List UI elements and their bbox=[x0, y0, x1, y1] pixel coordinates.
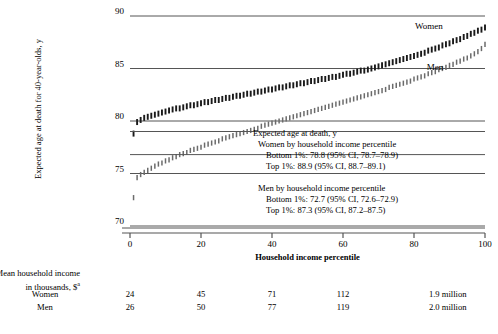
y-axis-title: Expected age at death for 40-year-olds, … bbox=[33, 9, 43, 209]
table-cell: 24 bbox=[100, 289, 160, 299]
series-label-women: Women bbox=[415, 21, 443, 31]
table-cell: 45 bbox=[171, 289, 231, 299]
annotation-men-top: Top 1%: 87.3 (95% CI, 87.2–87.5) bbox=[266, 205, 385, 216]
annotation-men-group: Men by household income percentile bbox=[258, 183, 385, 194]
table-header-line1: Mean household income bbox=[0, 268, 80, 279]
x-tick-label-60: 60 bbox=[328, 239, 358, 249]
table-cell: 2.0 million bbox=[404, 302, 492, 312]
y-tick-label-70: 70 bbox=[102, 216, 124, 226]
table-cell: 26 bbox=[100, 302, 160, 312]
annotation-women-group: Women by household income percentile bbox=[258, 139, 396, 150]
series-label-men: Men bbox=[427, 62, 444, 72]
table-row-label-women: Women bbox=[10, 289, 80, 299]
annotation-heading: Expected age at death, y bbox=[253, 128, 337, 139]
figure-panel: Expected age at death for 40-year-olds, … bbox=[0, 0, 498, 334]
annotation-women-bottom: Bottom 1%: 78.8 (95% CI, 78.7–78.9) bbox=[266, 150, 398, 161]
y-tick-label-85: 85 bbox=[102, 59, 124, 69]
annotation-men-bottom: Bottom 1%: 72.7 (95% CI, 72.6–72.9) bbox=[266, 194, 398, 205]
x-tick-label-40: 40 bbox=[257, 239, 287, 249]
table-row-label-men: Men bbox=[10, 302, 80, 312]
x-axis-title: Household income percentile bbox=[208, 252, 408, 262]
series-women-markers bbox=[134, 25, 485, 137]
annotation-women-top: Top 1%: 88.9 (95% CI, 88.7–89.1) bbox=[266, 161, 385, 172]
x-tick-label-0: 0 bbox=[115, 239, 145, 249]
table-cell: 71 bbox=[242, 289, 302, 299]
y-tick-label-80: 80 bbox=[102, 111, 124, 121]
x-tick-label-80: 80 bbox=[399, 239, 429, 249]
table-cell: 77 bbox=[242, 302, 302, 312]
y-tick-label-90: 90 bbox=[102, 6, 124, 16]
table-cell: 1.9 million bbox=[404, 289, 492, 299]
x-tick-label-100: 100 bbox=[470, 239, 498, 249]
y-tick-label-75: 75 bbox=[102, 164, 124, 174]
x-tick-label-20: 20 bbox=[186, 239, 216, 249]
x-axis bbox=[122, 233, 485, 238]
footnote-marker-a: a bbox=[77, 280, 80, 287]
table-cell: 119 bbox=[313, 302, 373, 312]
table-cell: 112 bbox=[313, 289, 373, 299]
table-cell: 50 bbox=[171, 302, 231, 312]
